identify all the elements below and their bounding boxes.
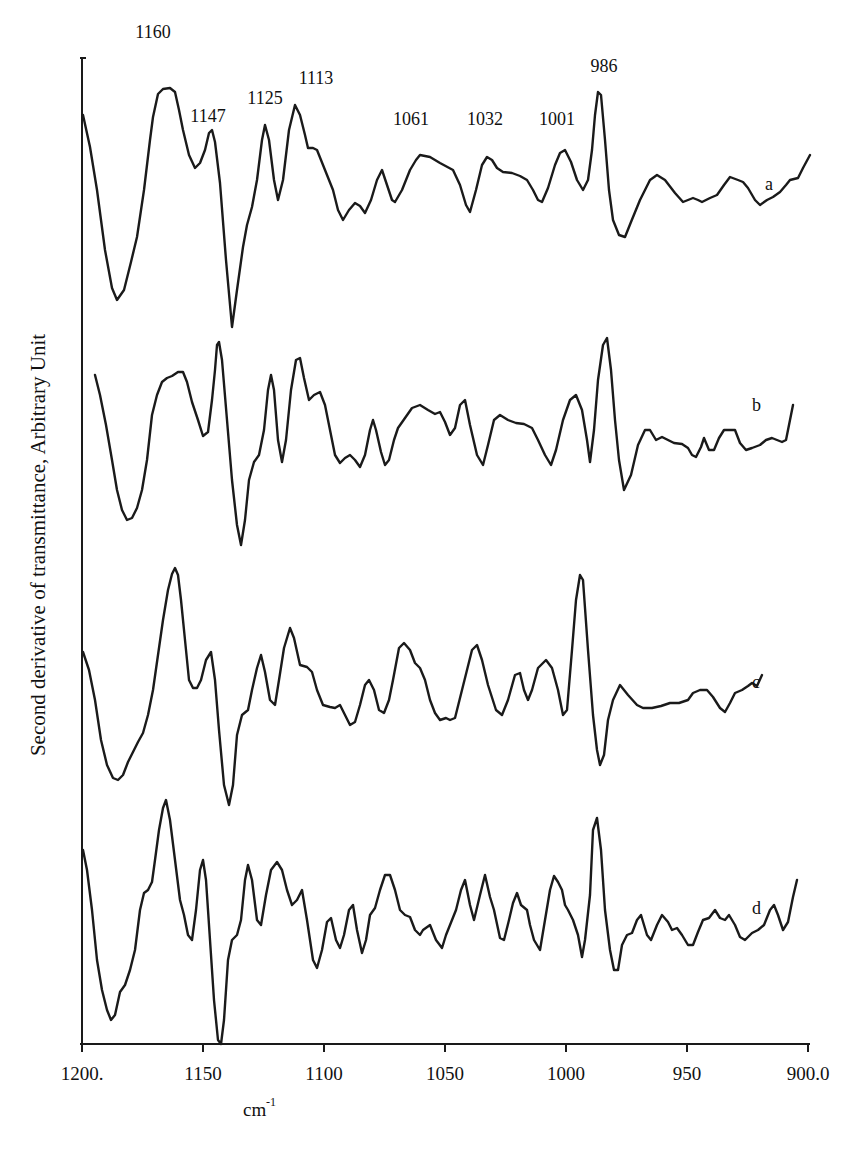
peak-label: 1125 [247,88,282,108]
x-tick-label: 950 [673,1063,702,1084]
x-tick-label: 900.0 [787,1063,830,1084]
series-label-d: d [752,898,761,918]
series-label-c: c [752,672,760,692]
series-label-a: a [765,174,773,194]
peak-label: 1113 [299,68,334,88]
peak-label: 1147 [190,106,225,126]
peak-label: 1061 [393,109,429,129]
x-tick-label: 1100 [305,1063,342,1084]
peak-label: 986 [591,56,618,76]
x-tick-label: 1150 [184,1063,221,1084]
series-label-b: b [752,395,761,415]
peak-label: 1032 [467,109,503,129]
x-tick-label: 1200. [61,1063,104,1084]
axes [80,58,810,1052]
peak-label: 1001 [539,109,575,129]
trace-b [95,338,793,545]
trace-d [83,800,797,1044]
peak-annotations: 1160 1147 1125 1113 1061 1032 1001 986 [135,22,617,129]
trace-c [83,568,762,805]
peak-label: 1160 [135,22,170,42]
x-axis-label: cm -1 [243,1095,276,1120]
x-tick-label: 1000 [547,1063,585,1084]
spectra-chart: 1200. 1150 1100 1050 1000 950 900.0 cm -… [0,0,851,1149]
x-axis-label-superscript: -1 [266,1095,276,1109]
x-axis-ticks [82,1044,808,1052]
x-tick-label: 1050 [426,1063,464,1084]
x-axis-label-main: cm [243,1099,266,1120]
y-axis-label: Second derivative of transmittance, Arbi… [26,334,50,756]
x-tick-labels: 1200. 1150 1100 1050 1000 950 900.0 [61,1063,830,1084]
